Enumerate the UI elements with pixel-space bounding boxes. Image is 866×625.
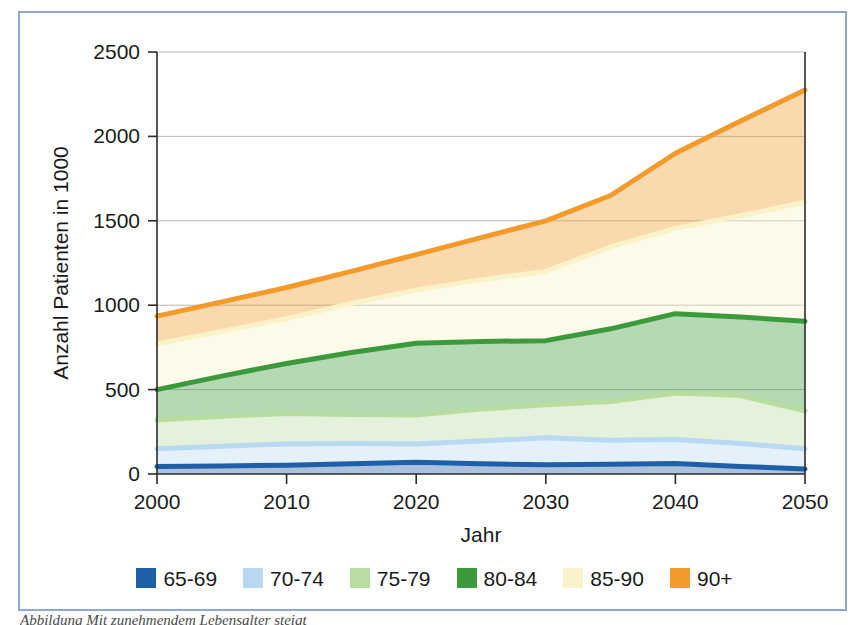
legend-item-80-84[interactable]: 80-84 bbox=[457, 568, 538, 589]
y-tick-label: 1500 bbox=[93, 209, 140, 232]
area-chart-svg: 05001000150020002500 2000201020202030204… bbox=[20, 13, 849, 613]
x-tick-label: 2040 bbox=[652, 490, 699, 513]
figure-frame: 05001000150020002500 2000201020202030204… bbox=[18, 11, 847, 611]
legend-swatch-icon bbox=[563, 568, 583, 588]
x-tick-label: 2020 bbox=[393, 490, 440, 513]
chart-legend: 65-6970-7475-7980-8485-9090+ bbox=[20, 561, 849, 595]
legend-swatch-icon bbox=[457, 568, 477, 588]
y-tick-label: 2500 bbox=[93, 40, 140, 63]
y-tick-label: 2000 bbox=[93, 124, 140, 147]
y-axis-title: Anzahl Patienten in 1000 bbox=[49, 146, 72, 380]
x-axis-ticks: 200020102020203020402050 bbox=[134, 474, 829, 513]
legend-label: 85-90 bbox=[590, 568, 644, 589]
y-axis-ticks: 05001000150020002500 bbox=[93, 40, 157, 485]
y-tick-label: 1000 bbox=[93, 293, 140, 316]
legend-item-85-90[interactable]: 85-90 bbox=[563, 568, 644, 589]
chart-plot-area: 05001000150020002500 2000201020202030204… bbox=[20, 13, 849, 613]
legend-item-75-79[interactable]: 75-79 bbox=[350, 568, 431, 589]
x-tick-label: 2050 bbox=[782, 490, 829, 513]
y-tick-label: 0 bbox=[128, 462, 140, 485]
x-tick-label: 2010 bbox=[263, 490, 310, 513]
x-axis-title: Jahr bbox=[461, 523, 502, 546]
legend-swatch-icon bbox=[670, 568, 690, 588]
legend-label: 90+ bbox=[697, 568, 733, 589]
legend-item-90+[interactable]: 90+ bbox=[670, 568, 733, 589]
legend-item-70-74[interactable]: 70-74 bbox=[243, 568, 324, 589]
figure-caption: Abbildung Mit zunehmendem Lebensalter st… bbox=[20, 612, 840, 625]
legend-swatch-icon bbox=[350, 568, 370, 588]
y-tick-label: 500 bbox=[105, 378, 140, 401]
legend-label: 75-79 bbox=[377, 568, 431, 589]
legend-swatch-icon bbox=[243, 568, 263, 588]
legend-label: 80-84 bbox=[484, 568, 538, 589]
x-tick-label: 2000 bbox=[134, 490, 181, 513]
legend-label: 65-69 bbox=[163, 568, 217, 589]
legend-item-65-69[interactable]: 65-69 bbox=[136, 568, 217, 589]
legend-swatch-icon bbox=[136, 568, 156, 588]
x-tick-label: 2030 bbox=[522, 490, 569, 513]
legend-label: 70-74 bbox=[270, 568, 324, 589]
